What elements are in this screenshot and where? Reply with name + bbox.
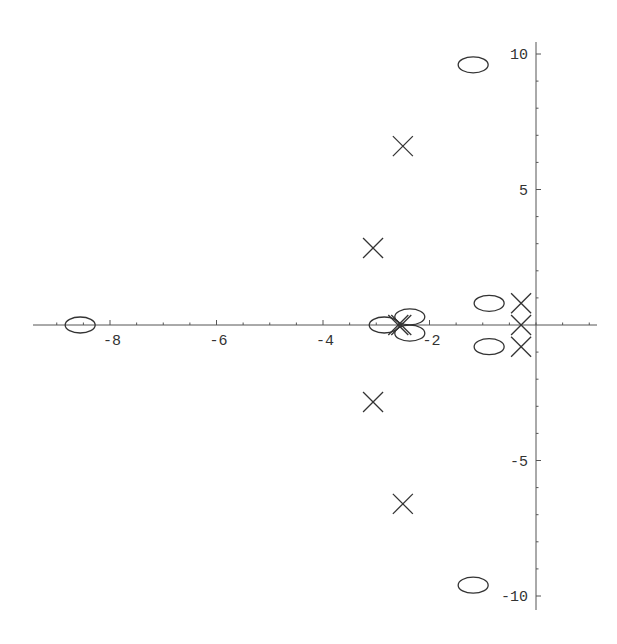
zero-marker <box>474 295 504 311</box>
x-tick-label: -2 <box>422 333 440 350</box>
x-tick-label: -4 <box>316 333 334 350</box>
zero-marker <box>458 57 488 73</box>
axis-ticks <box>57 54 590 596</box>
pole-marker <box>363 238 383 258</box>
x-tick-label: -8 <box>103 333 121 350</box>
pole-zero-plot: -8-6-4-2105-5-10 <box>0 0 617 644</box>
x-tick-label: -6 <box>209 333 227 350</box>
pole-marker <box>393 494 413 514</box>
pole-marker <box>511 293 531 313</box>
zero-marker <box>474 339 504 355</box>
axes <box>33 42 597 610</box>
y-tick-label: -5 <box>510 454 528 471</box>
pole-marker <box>393 136 413 156</box>
y-tick-label: -10 <box>501 589 528 606</box>
tick-labels: -8-6-4-2105-5-10 <box>103 47 528 606</box>
y-tick-label: 5 <box>519 183 528 200</box>
y-tick-label: 10 <box>510 47 528 64</box>
pole-marker <box>363 392 383 412</box>
zero-marker <box>458 577 488 593</box>
pole-marker <box>511 337 531 357</box>
